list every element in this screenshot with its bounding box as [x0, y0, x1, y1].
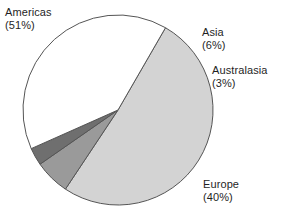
pie-chart-figure: Americas (51%) Asia (6%) Australasia (3%… — [0, 0, 288, 224]
pie-label-americas-name: Americas — [5, 6, 52, 19]
pie-chart-graphic — [0, 0, 288, 224]
pie-label-europe-name: Europe — [203, 178, 239, 191]
pie-label-asia-value: (6%) — [202, 39, 226, 52]
pie-label-europe: Europe (40%) — [203, 178, 239, 203]
pie-label-australasia: Australasia (3%) — [212, 64, 268, 89]
pie-label-americas: Americas (51%) — [5, 6, 52, 31]
pie-label-europe-value: (40%) — [203, 191, 239, 204]
pie-label-australasia-name: Australasia — [212, 64, 268, 77]
pie-label-americas-value: (51%) — [5, 19, 52, 32]
pie-label-asia-name: Asia — [202, 26, 226, 39]
pie-label-asia: Asia (6%) — [202, 26, 226, 51]
pie-slice-group — [23, 15, 213, 205]
pie-label-australasia-value: (3%) — [212, 77, 268, 90]
